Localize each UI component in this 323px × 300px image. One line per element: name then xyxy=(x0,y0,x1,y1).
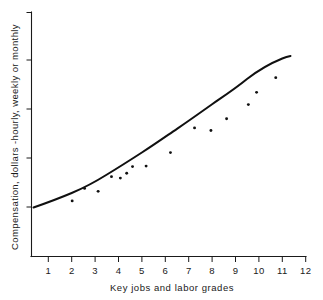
data-point xyxy=(274,76,277,79)
x-tick-label: 4 xyxy=(116,265,122,276)
data-point xyxy=(131,165,134,168)
x-tick-label: 5 xyxy=(139,265,145,276)
data-point xyxy=(209,129,212,132)
x-tick-label: 6 xyxy=(163,265,169,276)
x-tick-label: 7 xyxy=(186,265,192,276)
x-tick-label: 3 xyxy=(92,265,98,276)
data-point xyxy=(247,103,250,106)
data-point xyxy=(145,165,148,168)
data-point xyxy=(97,190,100,193)
data-point xyxy=(169,151,172,154)
data-point xyxy=(83,187,86,190)
chart-figure: 1 2 3 4 5 6 7 8 9 10 11 12 Key jobs and … xyxy=(0,0,323,300)
x-tick-label: 11 xyxy=(277,265,287,276)
y-axis-caption: Compensation, dollars -hourly, weekly or… xyxy=(9,24,20,250)
x-tick-label: 9 xyxy=(233,265,239,276)
x-tick-label: 2 xyxy=(69,265,75,276)
data-point xyxy=(193,126,196,129)
data-points-layer xyxy=(71,76,277,202)
x-tick-label: 8 xyxy=(209,265,215,276)
chart-canvas: 1 2 3 4 5 6 7 8 9 10 11 12 Key jobs and … xyxy=(0,0,323,300)
x-axis-tick-labels: 1 2 3 4 5 6 7 8 9 10 11 12 xyxy=(46,265,312,276)
x-tick-label: 1 xyxy=(46,265,52,276)
data-point xyxy=(125,172,128,175)
y-axis-group xyxy=(27,12,32,257)
data-point xyxy=(119,177,122,180)
data-point xyxy=(225,117,228,120)
data-point xyxy=(71,199,74,202)
data-point xyxy=(110,175,113,178)
x-axis-caption: Key jobs and labor grades xyxy=(110,282,234,293)
x-tick-label: 12 xyxy=(300,265,311,276)
x-axis-ticks xyxy=(48,257,305,263)
data-point xyxy=(255,91,258,94)
y-axis-ticks xyxy=(27,13,32,208)
trend-curve-line xyxy=(34,56,291,208)
x-tick-label: 10 xyxy=(253,265,264,276)
x-axis-group: 1 2 3 4 5 6 7 8 9 10 11 12 xyxy=(31,257,311,277)
